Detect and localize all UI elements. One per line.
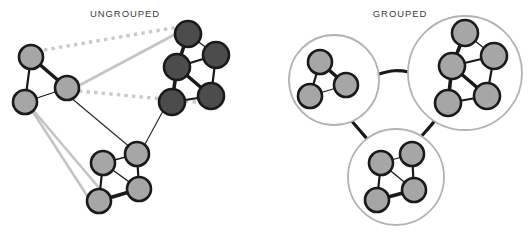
graph-node[interactable] xyxy=(127,177,151,201)
group-group-b[interactable] xyxy=(408,16,522,130)
graph-node[interactable] xyxy=(474,83,500,109)
graph-node[interactable] xyxy=(334,73,358,97)
group-boundary-circle[interactable] xyxy=(348,129,444,225)
graph-node[interactable] xyxy=(400,142,424,166)
ungrouped-panel-label: UNGROUPED xyxy=(90,8,160,19)
group-group-a[interactable] xyxy=(289,35,379,125)
graph-node[interactable] xyxy=(125,142,149,166)
graph-node[interactable] xyxy=(369,151,393,175)
graph-node[interactable] xyxy=(198,83,224,109)
grouped-panel-label: GROUPED xyxy=(373,8,427,19)
graph-node[interactable] xyxy=(481,43,507,69)
graph-node[interactable] xyxy=(452,20,478,46)
graph-node[interactable] xyxy=(55,76,79,100)
graph-node[interactable] xyxy=(402,178,426,202)
group-group-c[interactable] xyxy=(348,129,444,225)
graph-node[interactable] xyxy=(435,90,461,116)
graph-node[interactable] xyxy=(308,50,332,74)
graph-node[interactable] xyxy=(13,90,37,114)
graph-node[interactable] xyxy=(87,189,111,213)
diagram-canvas: UNGROUPED GROUPED xyxy=(0,0,531,232)
graph-node[interactable] xyxy=(203,42,229,68)
graph-node[interactable] xyxy=(298,84,322,108)
graph-node[interactable] xyxy=(91,151,115,175)
graph-node[interactable] xyxy=(365,188,389,212)
graph-node[interactable] xyxy=(19,45,43,69)
graph-node[interactable] xyxy=(439,53,465,79)
graph-node[interactable] xyxy=(159,89,185,115)
graph-node[interactable] xyxy=(175,21,201,47)
network-comparison-figure: UNGROUPED GROUPED xyxy=(0,0,531,232)
graph-node[interactable] xyxy=(164,54,190,80)
